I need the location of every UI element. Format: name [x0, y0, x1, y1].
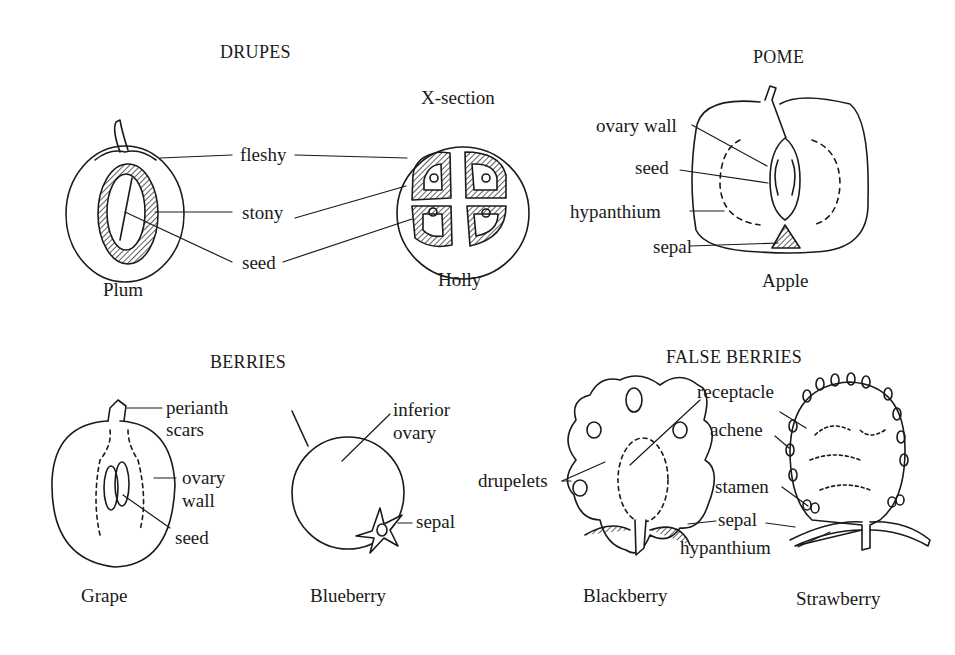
label-stony: stony: [242, 203, 283, 222]
caption-blueberry: Blueberry: [310, 586, 386, 605]
label-hypanthium-pome: hypanthium: [570, 202, 661, 221]
label-receptacle: receptacle: [697, 382, 774, 401]
caption-plum: Plum: [103, 280, 143, 299]
label-seed-grape: seed: [175, 528, 209, 547]
apple-drawing: [692, 86, 868, 253]
grape-drawing: [52, 400, 175, 567]
label-sepal-blueberry: sepal: [416, 512, 455, 531]
berries-heading: BERRIES: [210, 353, 286, 371]
caption-strawberry: Strawberry: [796, 589, 880, 608]
label-inferior: inferior: [393, 400, 450, 419]
label-sepal-pome: sepal: [653, 237, 692, 256]
caption-holly: Holly: [438, 270, 481, 289]
drupes-heading: DRUPES: [220, 43, 291, 61]
label-drupelets: drupelets: [478, 471, 548, 490]
label-hypanthium-strawberry: hypanthium: [680, 538, 771, 557]
holly-drawing: [397, 147, 529, 279]
blackberry-leader-lines: [562, 400, 716, 524]
label-ovary: ovary: [182, 468, 225, 487]
blackberry-drawing: [567, 376, 714, 555]
label-sepal-strawberry: sepal: [718, 510, 757, 529]
caption-apple: Apple: [762, 271, 808, 290]
label-ovary-wall: ovary wall: [596, 116, 677, 135]
false-berries-heading: FALSE BERRIES: [666, 348, 802, 366]
holly-x-section-label: X-section: [421, 88, 495, 107]
label-seed-pome: seed: [635, 158, 669, 177]
label-stamen: stamen: [715, 477, 769, 496]
pome-heading: POME: [753, 48, 804, 66]
label-wall: wall: [182, 491, 215, 510]
label-fleshy: fleshy: [240, 145, 286, 164]
label-achene: achene: [710, 420, 763, 439]
label-scars: scars: [166, 420, 204, 439]
strawberry-drawing: [786, 373, 930, 550]
plum-drawing: [66, 120, 184, 282]
strawberry-leader-lines: [766, 412, 830, 547]
label-perianth: perianth: [166, 398, 228, 417]
caption-blackberry: Blackberry: [583, 586, 667, 605]
blueberry-drawing: [292, 411, 404, 553]
label-seed-drupe: seed: [242, 253, 276, 272]
caption-grape: Grape: [81, 586, 127, 605]
label-ovary-blueberry: ovary: [393, 423, 436, 442]
